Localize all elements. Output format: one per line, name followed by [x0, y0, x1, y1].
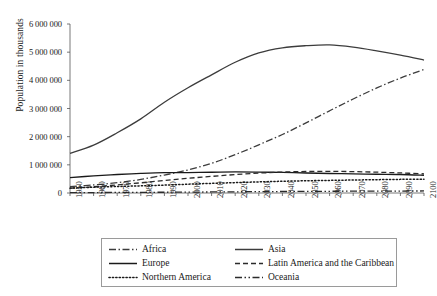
- x-tick-label: 1990: [168, 181, 178, 198]
- legend-item[interactable]: Africa: [108, 244, 234, 254]
- y-tick-label: 6 000 000: [29, 19, 62, 29]
- x-tick-label: 2060: [333, 181, 343, 198]
- legend-item[interactable]: Asia: [234, 244, 394, 254]
- y-tick-label: 5 000 000: [29, 47, 62, 57]
- legend: AfricaAsiaEuropeLatin America and the Ca…: [101, 238, 397, 287]
- x-tick-label: 1980: [144, 181, 154, 198]
- x-tick-label: 2050: [310, 181, 320, 198]
- legend-line-swatch: [108, 259, 138, 268]
- legend-line-swatch: [234, 245, 264, 254]
- legend-label: Africa: [142, 244, 166, 254]
- y-tick-label: 1 000 000: [29, 160, 62, 170]
- legend-item[interactable]: Oceania: [234, 272, 394, 282]
- series-lines: [70, 45, 424, 193]
- x-tick-label: 2010: [215, 181, 225, 198]
- legend-line-swatch: [234, 273, 264, 282]
- x-tick-label: 2030: [262, 181, 272, 198]
- legend-line-swatch: [108, 245, 138, 254]
- x-tick-label: 2070: [357, 181, 367, 198]
- legend-label: Latin America and the Caribbean: [268, 258, 394, 268]
- legend-item[interactable]: Latin America and the Caribbean: [234, 258, 394, 268]
- x-tick-label: 2020: [239, 181, 249, 198]
- y-tick-label: 4 000 000: [29, 75, 62, 85]
- y-tick-label: 2 000 000: [29, 132, 62, 142]
- y-tick-label: 3 000 000: [29, 104, 62, 114]
- legend-label: Europe: [142, 258, 169, 268]
- x-tick-label: 2080: [380, 181, 390, 198]
- x-tick-label: 2000: [192, 181, 202, 198]
- series-line: [70, 45, 424, 154]
- series-line: [70, 69, 424, 186]
- x-tick-label: 2040: [286, 181, 296, 198]
- x-tick-label: 2090: [404, 181, 414, 198]
- x-tick-label: 2100: [428, 181, 437, 198]
- population-line-chart: Population in thousands 01 000 0002 000 …: [0, 0, 437, 296]
- x-tick-label: 1950: [74, 181, 84, 198]
- series-line: [70, 172, 424, 178]
- y-tick-label: 0: [58, 188, 62, 198]
- legend-item[interactable]: Europe: [108, 258, 234, 268]
- legend-label: Northern America: [142, 272, 211, 282]
- y-axis-tick-labels: 01 000 0002 000 0003 000 0004 000 0005 0…: [0, 0, 62, 296]
- legend-line-swatch: [108, 273, 138, 282]
- legend-item[interactable]: Northern America: [108, 272, 234, 282]
- legend-line-swatch: [234, 259, 264, 268]
- legend-label: Oceania: [268, 272, 299, 282]
- legend-label: Asia: [268, 244, 285, 254]
- x-tick-label: 1960: [97, 181, 107, 198]
- x-tick-label: 1970: [121, 181, 131, 198]
